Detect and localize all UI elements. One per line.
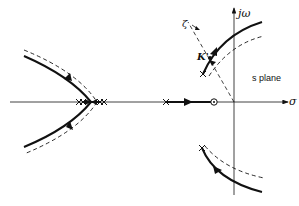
arrow-icon xyxy=(184,98,193,106)
root-locus-diagram: jω σ s plane K' ζ xyxy=(0,0,299,206)
imaginary-axis-label: jω xyxy=(238,8,250,19)
zero-marker xyxy=(211,99,217,105)
upper-locus-dashed xyxy=(209,36,264,76)
arrow-icon xyxy=(209,60,216,66)
root-locus-plot xyxy=(0,0,299,206)
damping-label: ζ xyxy=(182,19,187,29)
left-locus-branch xyxy=(24,56,91,147)
lower-locus-dashed xyxy=(205,146,264,178)
s-plane-label: s plane xyxy=(252,74,281,83)
gain-label: K' xyxy=(197,52,209,62)
real-axis-label: σ xyxy=(289,96,297,107)
arrow-icon xyxy=(210,47,217,56)
arrow-icon xyxy=(64,73,72,81)
upper-locus-branch xyxy=(203,22,262,74)
arrow-icon xyxy=(66,121,73,130)
lower-locus-branch xyxy=(202,148,262,192)
